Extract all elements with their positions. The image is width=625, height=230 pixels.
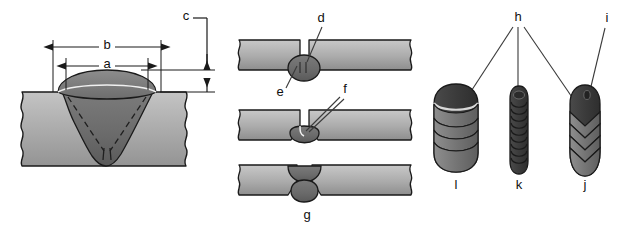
row3-plate-right: [312, 165, 412, 195]
bead-k: k: [510, 86, 528, 192]
callout-d-label: d: [317, 10, 324, 25]
joint-row-3: g: [238, 165, 412, 222]
callout-e-label: e: [276, 84, 283, 99]
row3-excess-root-penetration: [291, 180, 318, 202]
callout-f-label: f: [343, 81, 347, 96]
bead-k-crater: [514, 91, 525, 99]
callout-i-label: i: [606, 10, 609, 25]
joint-row-2: f: [238, 81, 412, 142]
bead-l-label: l: [455, 177, 458, 192]
dimension-a-label: a: [103, 56, 111, 71]
callout-g-label: g: [303, 207, 310, 222]
bead-l: l: [434, 84, 478, 192]
panel-right-bead-appearance: h i l: [434, 9, 609, 192]
row2-plate-right: [309, 110, 412, 140]
weld-diagram-figure: b a c: [0, 0, 625, 230]
dimension-b-label: b: [103, 37, 110, 52]
dimension-c-label: c: [183, 8, 190, 23]
panel-left-groove-weld: b a c: [21, 8, 215, 166]
weld-reinforcement-cap: [58, 70, 156, 99]
row2-root-bead: [290, 126, 319, 143]
joint-row-1: d e: [238, 10, 412, 99]
row1-root-bead: [288, 55, 320, 81]
diagram-canvas: b a c: [0, 0, 625, 230]
callout-h-leader-to-l: [466, 27, 513, 99]
row1-plate-right: [309, 40, 412, 70]
callout-h-leader-to-j: [524, 27, 576, 103]
panel-middle-root-passes: d e f g: [238, 10, 412, 222]
bead-k-label: k: [516, 177, 523, 192]
callout-h-label: h: [514, 9, 521, 24]
bead-j-crater: [584, 91, 590, 100]
dimension-c: c: [141, 8, 215, 92]
bead-j-label: j: [583, 177, 587, 192]
bead-j: j: [570, 85, 600, 192]
